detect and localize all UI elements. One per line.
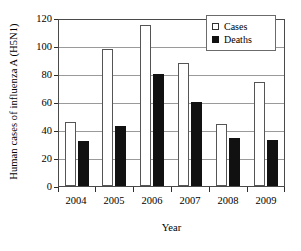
y-tick-label: 120 [22,14,52,25]
legend-label-deaths: Deaths [224,35,252,45]
x-tick-mark [58,187,59,192]
bar-deaths-2009 [267,140,278,186]
x-axis-title: Year [58,222,285,233]
y-tick-label: 100 [22,42,52,53]
x-tick-label-2009: 2009 [244,195,288,206]
legend-label-cases: Cases [224,22,247,32]
bar-cases-2005 [102,49,113,186]
bar-group-2004 [59,20,96,186]
bar-deaths-2006 [153,74,164,186]
y-axis-title: Human cases of influenza A (H5N1) [8,12,19,192]
y-tick-label: 60 [22,98,52,109]
chart-legend: Cases Deaths [206,15,276,51]
legend-item-deaths: Deaths [212,33,270,46]
bar-group-2006 [134,20,172,186]
x-tick-mark [133,187,134,192]
bar-group-2005 [96,20,134,186]
bar-cases-2009 [254,82,265,186]
y-tick-label: 0 [22,182,52,193]
y-tick-label: 40 [22,126,52,137]
legend-item-cases: Cases [212,20,270,33]
x-tick-mark [171,187,172,192]
bar-cases-2006 [140,25,151,186]
x-tick-mark [95,187,96,192]
open-square-icon [212,23,219,30]
bar-deaths-2004 [78,141,89,186]
y-tick-label: 80 [22,70,52,81]
bar-cases-2004 [65,122,76,186]
filled-square-icon [212,36,219,43]
bar-cases-2007 [178,63,189,186]
chart-figure: Human cases of influenza A (H5N1) 120 10… [0,0,301,251]
bar-group-2007 [172,20,210,186]
bar-deaths-2008 [229,138,240,186]
bar-deaths-2005 [115,126,126,186]
bar-deaths-2007 [191,102,202,186]
x-tick-mark [247,187,248,192]
bar-cases-2008 [216,124,227,186]
y-tick-label: 20 [22,154,52,165]
x-tick-mark [284,187,285,192]
x-tick-mark [209,187,210,192]
